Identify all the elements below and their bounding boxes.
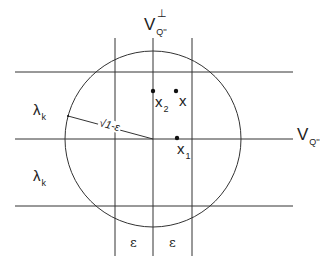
lambda-bottom-main: λ <box>33 167 41 184</box>
v-q-sub: Q'' <box>309 137 319 147</box>
x1-label: x1 <box>177 141 191 156</box>
v-q-label: VQ'' <box>297 126 320 143</box>
epsilon-right-label: ε <box>169 236 176 249</box>
v-perp-sup: ⊥ <box>157 8 167 19</box>
lambda-top-main: λ <box>33 101 41 118</box>
x1-sub: 1 <box>186 151 191 161</box>
x-main: x <box>179 92 187 109</box>
lambda-top-sub: k <box>42 112 47 122</box>
x2-sub: 2 <box>164 104 169 114</box>
x2-main: x <box>155 93 163 110</box>
lambda-bottom-label: λk <box>33 168 46 183</box>
v-perp-label: VQ''⊥ <box>144 16 167 33</box>
diagram-canvas <box>0 0 326 271</box>
x2-label: x2 <box>155 94 169 109</box>
x-label: x <box>179 93 187 108</box>
v-perp-sub: Q'' <box>156 27 166 37</box>
epsilon-left-label: ε <box>130 236 137 249</box>
v-perp-main: V <box>144 15 155 34</box>
v-q-main: V <box>297 125 308 144</box>
x1-main: x <box>177 140 185 157</box>
lambda-top-label: λk <box>33 102 46 117</box>
point-x <box>174 89 178 93</box>
radius-endpoint <box>67 115 69 117</box>
lambda-bottom-sub: k <box>42 178 47 188</box>
